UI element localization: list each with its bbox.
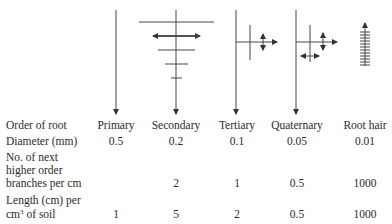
cell-secondary: Secondary: [152, 119, 201, 132]
cell-secondary: 2: [173, 177, 179, 190]
row-label-line-3: branches per cm: [6, 177, 81, 190]
cell-secondary: 0.2: [169, 135, 183, 148]
root-hair-icon: [360, 23, 370, 66]
row-label-line-1: No. of next: [6, 151, 58, 164]
cell-primary: 1: [113, 208, 119, 221]
secondary-root-icon: [139, 10, 214, 114]
cell-root-hair: Root hair: [343, 119, 386, 132]
quaternary-root-icon: [296, 10, 337, 114]
cell-quaternary: Quaternary: [271, 119, 323, 132]
cell-tertiary: 0.1: [230, 135, 244, 148]
root-branching-diagram: [0, 0, 392, 124]
cell-quaternary: 0.5: [290, 208, 304, 221]
cell-primary: Primary: [97, 119, 134, 132]
row-label-line-2: cm3 of soil: [6, 208, 56, 221]
cell-root-hair: 0.01: [355, 135, 375, 148]
cell-tertiary: 2: [234, 208, 240, 221]
cell-quaternary: 0.5: [290, 177, 304, 190]
cell-root-hair: 1000: [354, 208, 377, 221]
cell-quaternary: 0.05: [287, 135, 307, 148]
cell-secondary: 5: [173, 208, 179, 221]
tertiary-root-icon: [236, 10, 277, 114]
cell-root-hair: 1000: [354, 177, 377, 190]
row-label: Order of root: [6, 119, 67, 132]
row-label-line-1: Length (cm) per: [6, 194, 81, 207]
row-label: Diameter (mm): [6, 135, 77, 148]
cell-tertiary: Tertiary: [219, 119, 255, 132]
row-label-line-2: higher order: [6, 164, 63, 177]
cell-primary: 0.5: [109, 135, 123, 148]
cell-tertiary: 1: [234, 177, 240, 190]
